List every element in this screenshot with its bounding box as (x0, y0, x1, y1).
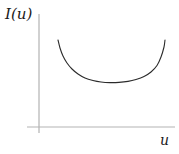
plot-canvas (0, 0, 179, 154)
figure-plot-iu: I(u) u (0, 0, 179, 154)
x-axis-label: u (160, 133, 169, 147)
y-axis-label: I(u) (5, 7, 32, 22)
data-curve-iu (58, 40, 165, 83)
